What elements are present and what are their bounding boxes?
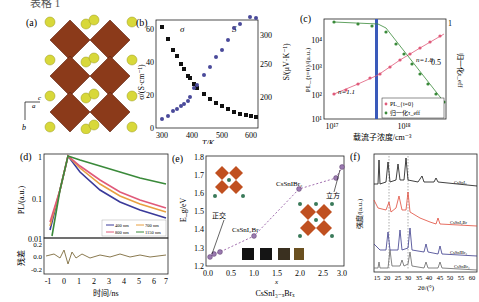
svg-text:1.5: 1.5 bbox=[272, 269, 282, 278]
y-bottom-ticks: -0.2 0.0 0.2 bbox=[31, 241, 43, 274]
svg-text:10²: 10² bbox=[312, 91, 323, 100]
svg-text:700 nm: 700 nm bbox=[145, 223, 159, 228]
svg-text:50: 50 bbox=[447, 274, 454, 281]
svg-text:(e): (e) bbox=[172, 153, 183, 165]
x-ticks: 10¹⁷ 10¹⁸ bbox=[325, 122, 410, 131]
y-top-ticks: 0.01 0.1 1 bbox=[28, 153, 42, 244]
svg-text:2.0: 2.0 bbox=[295, 269, 305, 278]
svg-text:300: 300 bbox=[260, 31, 272, 40]
octahedra-icon bbox=[50, 20, 130, 132]
svg-text:a: a bbox=[32, 102, 36, 110]
svg-text:3.0: 3.0 bbox=[337, 269, 347, 278]
S-series bbox=[160, 15, 258, 121]
svg-text:400: 400 bbox=[186, 131, 198, 140]
svg-text:CsSnBr₃: CsSnBr₃ bbox=[454, 264, 470, 269]
x-axis-label: T/K bbox=[202, 139, 215, 144]
pl-series bbox=[332, 34, 441, 95]
svg-text:10⁴: 10⁴ bbox=[311, 36, 322, 45]
y-right-label: S/(μV·K⁻¹) bbox=[282, 43, 291, 80]
svg-text:归一化τ_eff: 归一化τ_eff bbox=[390, 109, 420, 117]
svg-text:b: b bbox=[22, 123, 26, 132]
panel-d-chart: (d) 0.01 0.1 1 -0.2 0.0 0.2 -1 0 1 2 3 4… bbox=[10, 150, 170, 302]
svg-text:CsSnI₂Br: CsSnI₂Br bbox=[450, 220, 468, 225]
svg-text:1150 nm: 1150 nm bbox=[145, 230, 161, 235]
svg-text:60: 60 bbox=[146, 25, 154, 34]
svg-text:CsSnI₃: CsSnI₃ bbox=[454, 180, 467, 185]
svg-text:800 nm: 800 nm bbox=[115, 230, 129, 235]
x-ticks: 0.0 0.5 1.0 1.5 2.0 2.5 3.0 bbox=[203, 269, 347, 278]
y-bottom-label: 残差 bbox=[16, 250, 26, 266]
svg-text:0: 0 bbox=[150, 124, 154, 133]
svg-text:500: 500 bbox=[216, 131, 228, 140]
svg-text:-1: -1 bbox=[45, 277, 52, 286]
svg-text:10¹: 10¹ bbox=[312, 115, 323, 124]
y-axis-label: E_g/eV bbox=[179, 198, 188, 223]
panel-f-chart: (f) 15 20 25 30 35 40 45 50 55 60 2θ/(°)… bbox=[350, 150, 479, 302]
svg-text:40: 40 bbox=[146, 58, 154, 67]
svg-text:1.5: 1.5 bbox=[194, 207, 204, 216]
y-ticks: 1.2 1.3 1.4 1.5 1.6 1.7 1.8 bbox=[194, 153, 204, 271]
panel-a-label: (a) bbox=[26, 17, 37, 29]
svg-text:45: 45 bbox=[437, 274, 444, 281]
x-axis-label: 2θ/(°) bbox=[418, 284, 435, 292]
y-right-label: 归一化τ_eff bbox=[456, 53, 465, 89]
svg-text:3: 3 bbox=[107, 277, 111, 286]
svg-text:250: 250 bbox=[260, 60, 272, 69]
svg-text:600: 600 bbox=[245, 131, 257, 140]
y-right-ticks: 0.5 1 bbox=[431, 19, 452, 67]
svg-text:20: 20 bbox=[146, 91, 154, 100]
x-ticks: 15 20 25 30 35 40 45 50 55 60 bbox=[374, 274, 476, 281]
y-right-ticks: 200 250 300 bbox=[260, 31, 272, 102]
x-axis-label: 时间/ns bbox=[93, 288, 118, 298]
svg-text:35: 35 bbox=[416, 274, 423, 281]
svg-text:6: 6 bbox=[152, 277, 156, 286]
figure-caption-fragment: 表格 1 bbox=[30, 0, 60, 10]
svg-text:立方: 立方 bbox=[326, 191, 340, 200]
svg-text:10³: 10³ bbox=[312, 63, 323, 72]
residuals-curve bbox=[46, 250, 166, 264]
svg-text:40: 40 bbox=[426, 274, 433, 281]
y-left-ticks: 10¹ 10² 10³ 10⁴ bbox=[311, 36, 322, 124]
svg-text:2.5: 2.5 bbox=[318, 269, 328, 278]
sample-photos bbox=[242, 248, 304, 260]
svg-text:n=1.8: n=1.8 bbox=[416, 56, 433, 64]
panel-b-chart: (b) 0 20 40 60 200 250 300 300 400 500 6… bbox=[136, 12, 296, 144]
svg-text:0.5: 0.5 bbox=[226, 269, 236, 278]
svg-text:1.8: 1.8 bbox=[194, 153, 204, 162]
svg-text:-0.2: -0.2 bbox=[31, 266, 43, 274]
svg-text:CsSnIBr₂: CsSnIBr₂ bbox=[450, 250, 468, 255]
svg-text:200: 200 bbox=[260, 93, 272, 102]
svg-text:25: 25 bbox=[395, 274, 402, 281]
svg-text:400 nm: 400 nm bbox=[115, 223, 129, 228]
svg-text:4: 4 bbox=[122, 277, 126, 286]
svg-text:0.0: 0.0 bbox=[203, 269, 213, 278]
svg-text:1: 1 bbox=[38, 153, 42, 162]
svg-text:σ: σ bbox=[180, 24, 185, 34]
y-top-label: PL/(a.u.) bbox=[17, 185, 26, 214]
panel-e-chart: (e) 1.2 1.3 1.4 1.5 1.6 1.7 1.8 0.0 0.5 … bbox=[172, 150, 350, 302]
svg-text:0.0: 0.0 bbox=[33, 253, 42, 261]
svg-text:1.7: 1.7 bbox=[194, 171, 204, 180]
x-ticks: -1 0 1 2 3 4 5 6 7 bbox=[45, 277, 168, 286]
svg-text:n=1.1: n=1.1 bbox=[338, 88, 355, 96]
svg-text:2: 2 bbox=[92, 277, 96, 286]
svg-text:(d): (d) bbox=[20, 151, 32, 163]
svg-text:1.4: 1.4 bbox=[194, 225, 204, 234]
svg-text:55: 55 bbox=[458, 274, 465, 281]
svg-text:7: 7 bbox=[164, 277, 168, 286]
vertical-band bbox=[375, 19, 378, 119]
svg-text:正交: 正交 bbox=[212, 211, 226, 220]
svg-text:1.3: 1.3 bbox=[194, 244, 204, 253]
svg-text:1: 1 bbox=[77, 277, 81, 286]
svg-text:1: 1 bbox=[448, 19, 452, 28]
structure-inset-orthorhombic bbox=[213, 164, 245, 204]
x-axis-label: CsSnI₃₋ₓBrₓ bbox=[255, 289, 295, 298]
svg-text:1.6: 1.6 bbox=[194, 189, 204, 198]
svg-text:(f): (f) bbox=[350, 151, 360, 163]
svg-text:300: 300 bbox=[156, 131, 168, 140]
svg-text:1.0: 1.0 bbox=[249, 269, 259, 278]
svg-text:20: 20 bbox=[384, 274, 391, 281]
svg-text:CsSnIBr₂: CsSnIBr₂ bbox=[276, 180, 303, 188]
svg-text:x: x bbox=[274, 278, 279, 286]
svg-text:30: 30 bbox=[405, 274, 412, 281]
